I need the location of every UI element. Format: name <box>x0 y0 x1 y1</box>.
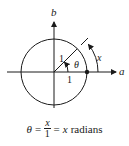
result-unit: radians <box>71 123 103 135</box>
theta-symbol: θ <box>27 123 32 135</box>
theta-arc-arrow <box>65 62 68 72</box>
x-arc-label: x <box>96 52 102 63</box>
equals-sign-2: = <box>54 123 60 135</box>
result-variable: x <box>63 123 68 135</box>
radius-label: 1 <box>59 53 64 64</box>
formula-caption: θ = x 1 = x radians <box>0 118 129 139</box>
arc-end-tick <box>81 38 88 45</box>
b-axis-label: b <box>51 6 57 18</box>
base-label: 1 <box>67 74 72 85</box>
a-axis-label: a <box>119 65 125 77</box>
theta-label: θ <box>74 59 79 70</box>
fraction: x 1 <box>44 118 50 139</box>
denominator: 1 <box>45 129 50 139</box>
equals-sign: = <box>35 123 41 135</box>
point-1-0 <box>85 70 89 74</box>
